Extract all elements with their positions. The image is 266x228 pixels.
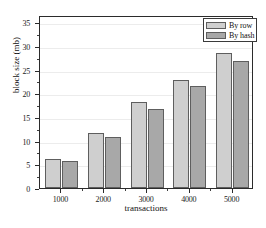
x-tick-minor <box>82 189 83 191</box>
x-tick-mark <box>146 189 147 193</box>
bar-2000-hash <box>105 137 121 188</box>
x-tick-mark <box>232 189 233 193</box>
x-tick-minor <box>167 189 168 191</box>
y-tick-label: 30 <box>22 42 30 51</box>
legend: By row By hash <box>203 18 257 42</box>
y-tick-label: 5 <box>26 161 30 170</box>
bars-layer <box>40 17 252 188</box>
bar-5000-row <box>216 53 232 188</box>
bar-3000-hash <box>148 109 164 188</box>
y-tick-label: 15 <box>22 113 30 122</box>
bar-4000-row <box>173 80 189 188</box>
bar-5000-hash <box>233 61 249 188</box>
bar-2000-row <box>88 133 104 188</box>
x-tick-mark <box>60 189 61 193</box>
bar-3000-row <box>131 102 147 188</box>
bar-1000-row <box>45 159 61 188</box>
legend-label-by-hash: By hash <box>229 31 254 40</box>
x-tick-mark <box>189 189 190 193</box>
legend-swatch-by-row <box>206 22 226 29</box>
y-tick-label: 25 <box>22 66 30 75</box>
legend-label-by-row: By row <box>229 21 252 30</box>
x-tick-minor <box>210 189 211 191</box>
bar-4000-hash <box>190 86 206 188</box>
x-tick-mark <box>103 189 104 193</box>
y-tick-label: 20 <box>22 90 30 99</box>
y-tick-label: 35 <box>22 19 30 28</box>
legend-entry-by-row: By row <box>206 20 254 30</box>
legend-entry-by-hash: By hash <box>206 30 254 40</box>
y-tick-label: 0 <box>26 185 30 194</box>
y-tick-label: 10 <box>22 137 30 146</box>
y-axis-title: block size (mb) <box>11 5 21 125</box>
x-tick-minor <box>125 189 126 191</box>
bar-1000-hash <box>62 161 78 188</box>
legend-swatch-by-hash <box>206 32 226 39</box>
bar-chart-figure: 05101520253035 10002000300040005000 tran… <box>0 0 266 228</box>
x-axis-title: transactions <box>39 203 253 213</box>
